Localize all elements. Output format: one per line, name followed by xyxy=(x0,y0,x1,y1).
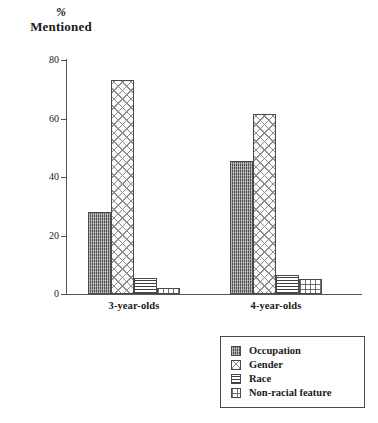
legend-label: Race xyxy=(249,373,271,385)
legend-swatch-icon xyxy=(231,388,241,398)
legend-item-non-racial-feature: Non-racial feature xyxy=(231,386,358,400)
bar-occupation-4-year-olds xyxy=(230,161,253,294)
y-tick-mark xyxy=(61,60,66,61)
legend-label: Gender xyxy=(249,359,283,371)
legend-item-gender: Gender xyxy=(231,358,358,372)
y-tick-label: 60 xyxy=(19,114,59,124)
bar-gender-3-year-olds xyxy=(111,80,134,294)
legend-label: Non-racial feature xyxy=(249,387,331,399)
y-tick-mark xyxy=(61,294,66,295)
bar-non-racial-feature-4-year-olds xyxy=(299,279,322,294)
x-axis-line xyxy=(66,294,362,295)
legend-item-race: Race xyxy=(231,372,358,386)
legend-swatch-icon xyxy=(231,374,241,384)
y-tick-mark xyxy=(61,119,66,120)
bar-gender-4-year-olds xyxy=(253,114,276,294)
legend-item-occupation: Occupation xyxy=(231,344,358,358)
y-tick-label: 20 xyxy=(19,231,59,241)
y-tick-mark xyxy=(61,177,66,178)
y-tick-label: 80 xyxy=(19,55,59,65)
bar-race-4-year-olds xyxy=(276,275,299,294)
chart-legend: OccupationGenderRaceNon-racial feature xyxy=(220,336,365,408)
y-axis-line xyxy=(66,59,67,295)
x-axis-label-3-year-olds: 3-year-olds xyxy=(74,300,194,311)
y-tick-mark xyxy=(61,236,66,237)
legend-label: Occupation xyxy=(249,345,301,357)
legend-swatch-icon xyxy=(231,360,241,370)
y-tick-label: 0 xyxy=(19,289,59,299)
legend-swatch-icon xyxy=(231,346,241,356)
bar-non-racial-feature-3-year-olds xyxy=(157,288,180,294)
x-axis-label-4-year-olds: 4-year-olds xyxy=(216,300,336,311)
bar-occupation-3-year-olds xyxy=(88,212,111,294)
bar-race-3-year-olds xyxy=(134,278,157,294)
y-tick-label: 40 xyxy=(19,172,59,182)
